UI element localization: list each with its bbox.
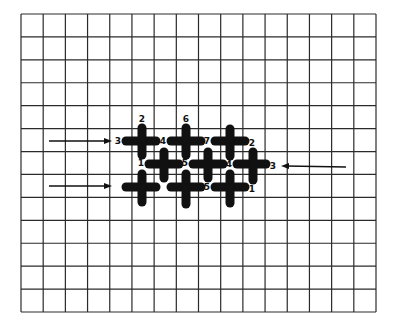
step-number-label: 2 [249, 138, 255, 148]
step-number-label: 1 [138, 158, 144, 168]
step-number-label: 5 [204, 182, 210, 192]
step-number-label: 7 [204, 136, 210, 146]
step-number-label: 6 [183, 114, 189, 124]
step-number-label: 4 [160, 136, 166, 146]
stitch-diagram: 263472154351 [0, 0, 393, 329]
step-number-label: 5 [182, 158, 188, 168]
step-number-label: 2 [139, 114, 145, 124]
step-number-label: 3 [270, 161, 276, 171]
step-number-label: 3 [115, 136, 121, 146]
step-number-label: 1 [249, 184, 255, 194]
step-number-label: 4 [226, 159, 232, 169]
